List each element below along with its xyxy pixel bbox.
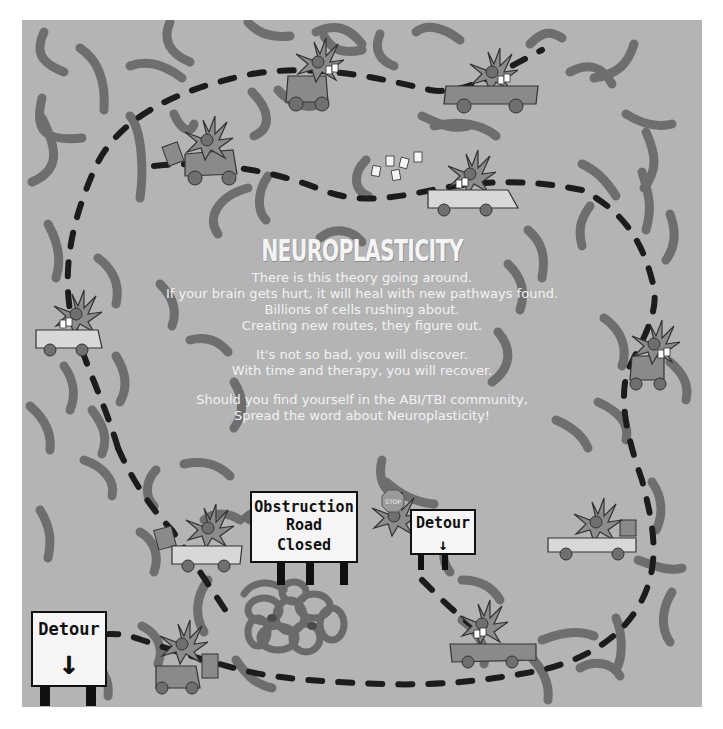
svg-text:↓: ↓: [438, 535, 448, 554]
neuroplasticity-poster: STOP Obstruction Road Closed Detour ↓ D: [22, 20, 702, 707]
neuron-driver-car-icon: [548, 498, 636, 560]
verse-line: It's not so bad, you will discover.: [22, 347, 702, 363]
detour-sign-right: Detour ↓: [411, 510, 475, 570]
svg-text:Detour: Detour: [38, 619, 99, 639]
verse-stanza-3: Should you find yourself in the ABI/TBI …: [22, 392, 702, 424]
verse-line: If your brain gets hurt, it will heal wi…: [22, 286, 702, 302]
neuron-driver-car-icon: [450, 600, 536, 668]
verse-stanza-2: It's not so bad, you will discover. With…: [22, 347, 702, 379]
svg-text:Detour: Detour: [416, 514, 470, 532]
verse-line: Spread the word about Neuroplasticity!: [22, 408, 702, 424]
verse-stanza-1: There is this theory going around. If yo…: [22, 270, 702, 334]
obstruction-road-closed-sign: Obstruction Road Closed: [251, 492, 357, 585]
svg-text:Obstruction: Obstruction: [254, 498, 353, 516]
verse-line: Billions of cells rushing about.: [22, 302, 702, 318]
neuron-driver-cart-icon: [286, 38, 344, 111]
poster-title: NEUROPLASTICITY: [131, 233, 593, 268]
verse-line: With time and therapy, you will recover.: [22, 363, 702, 379]
svg-text:Closed: Closed: [277, 536, 331, 554]
neuron-driver-cart-icon: [162, 116, 237, 185]
svg-text:STOP: STOP: [385, 498, 401, 505]
neuron-driver-cart-icon: [156, 620, 218, 694]
verse-line: Should you find yourself in the ABI/TBI …: [22, 392, 702, 408]
neuron-driver-car-icon: [428, 150, 518, 216]
detour-sign-left: Detour ↓: [32, 612, 106, 706]
paper-sheets: [371, 152, 422, 181]
svg-text:↓: ↓: [59, 642, 79, 682]
svg-text:Road: Road: [286, 516, 322, 534]
verse-line: There is this theory going around.: [22, 270, 702, 286]
verse-line: Creating new routes, they figure out.: [22, 318, 702, 334]
